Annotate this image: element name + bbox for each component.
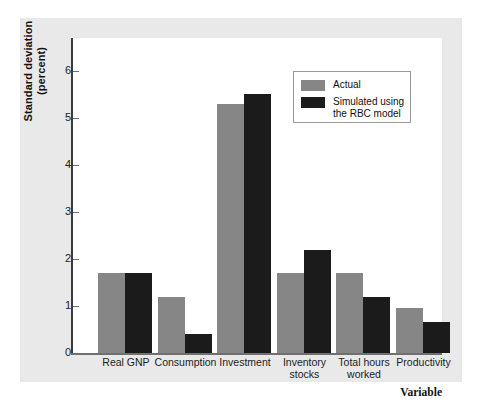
y-tick-label-wrap: 3 [48, 205, 71, 217]
y-tick-label: 1 [53, 299, 71, 311]
bar-simulated [304, 250, 331, 353]
bar-simulated [185, 334, 212, 353]
x-label-line: Investment [213, 357, 277, 369]
y-tick-label: 6 [53, 64, 71, 76]
bar-simulated [423, 322, 450, 353]
y-axis-title-line1: Standard deviation [22, 1, 35, 141]
legend-label: Simulated using the RBC model [333, 96, 404, 119]
bar-simulated [125, 273, 152, 353]
y-tick-label-wrap: 5 [48, 111, 71, 123]
y-tick-mark [73, 212, 79, 213]
y-tick-label: 2 [53, 252, 71, 264]
legend-item: Simulated using the RBC model [301, 96, 404, 119]
x-axis-label: Consumption [154, 357, 218, 369]
y-tick-label: 0 [53, 346, 71, 358]
bar-actual [217, 104, 244, 353]
bar-simulated [363, 297, 390, 353]
bar-actual [336, 273, 363, 353]
y-tick-mark [73, 259, 79, 260]
y-tick-label-wrap: 2 [48, 252, 71, 264]
y-tick-label-wrap: 4 [48, 158, 71, 170]
y-tick-label: 5 [53, 111, 71, 123]
y-tick-label-wrap: 0 [48, 346, 71, 358]
y-tick-mark [73, 71, 79, 72]
y-tick-mark [73, 306, 79, 307]
chart-legend: ActualSimulated using the RBC model [293, 71, 411, 123]
x-label-line: stocks [273, 369, 337, 381]
bar-actual [158, 297, 185, 353]
y-tick-mark [73, 118, 79, 119]
y-axis-title: Standard deviation (percent) [22, 1, 48, 141]
y-tick-label: 4 [53, 158, 71, 170]
x-label-line: Productivity [392, 357, 456, 369]
x-label-line: Consumption [154, 357, 218, 369]
x-axis-line [71, 353, 442, 355]
legend-label: Actual [333, 79, 361, 91]
legend-swatch [301, 80, 325, 91]
bar-simulated [244, 94, 271, 353]
x-label-line: Inventory [273, 357, 337, 369]
bar-actual [98, 273, 125, 353]
bar-actual [396, 308, 423, 353]
y-tick-label: 3 [53, 205, 71, 217]
x-axis-label: Real GNP [94, 357, 158, 369]
y-tick-mark [73, 165, 79, 166]
x-label-line: worked [332, 369, 396, 381]
legend-swatch [301, 97, 325, 108]
y-axis-title-line2: (percent) [35, 1, 48, 141]
legend-item: Actual [301, 79, 361, 91]
x-axis-label: Investment [213, 357, 277, 369]
x-axis-title: Variable [330, 386, 442, 398]
x-axis-label: Total hoursworked [332, 357, 396, 380]
x-label-line: Real GNP [94, 357, 158, 369]
y-tick-mark [73, 353, 79, 354]
x-axis-label: Inventorystocks [273, 357, 337, 380]
y-tick-label-wrap: 1 [48, 299, 71, 311]
x-axis-label: Productivity [392, 357, 456, 369]
y-tick-label-wrap: 6 [48, 64, 71, 76]
bar-actual [277, 273, 304, 353]
x-label-line: Total hours [332, 357, 396, 369]
